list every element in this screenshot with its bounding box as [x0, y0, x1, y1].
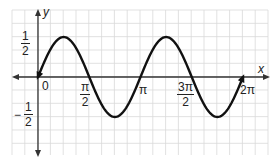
x-tick-label-pi-half: π 2 — [80, 81, 90, 108]
negative-sign: − — [14, 109, 21, 121]
x-tick-label-two-pi: 2π — [240, 84, 255, 96]
y-tick-label-neg-half: 1 2 — [24, 101, 33, 128]
numerator: 1 — [21, 30, 30, 44]
numerator: 3π — [177, 81, 194, 95]
x-tick-label-pi: π — [139, 84, 147, 96]
denominator: 2 — [82, 95, 89, 108]
numerator: π — [80, 81, 90, 95]
y-axis-label: y — [43, 6, 49, 18]
numerator: 1 — [24, 101, 33, 115]
denominator: 2 — [22, 44, 29, 57]
denominator: 2 — [25, 115, 32, 128]
x-tick-label-three-pi-half: 3π 2 — [177, 81, 194, 108]
denominator: 2 — [182, 95, 189, 108]
x-axis-label: x — [258, 63, 264, 75]
origin-label: 0 — [42, 80, 49, 92]
y-tick-label-half: 1 2 — [21, 30, 30, 57]
